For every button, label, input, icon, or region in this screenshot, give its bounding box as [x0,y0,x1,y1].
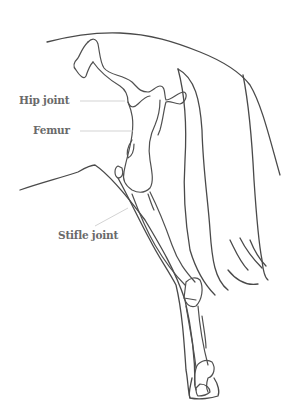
hoof-inner [196,384,210,396]
ischium [93,62,150,107]
stifle-joint-leader [95,208,128,226]
hip-joint-label: Hip joint [19,94,69,106]
tail-outline [178,69,228,290]
pelvis-bone [88,39,186,135]
patella-bone [115,166,123,178]
horse-hindleg-diagram: Hip joint Femur Stifle joint [0,0,286,418]
stifle-joint-label: Stifle joint [58,229,118,241]
belly-outline [20,165,195,385]
rump-outline [47,33,280,175]
fibula-bone [148,194,154,210]
femur-label: Femur [33,124,70,136]
hock-bones [184,278,202,307]
pelvis-wing [74,42,93,78]
illustration [0,0,286,418]
leg-front-outline [118,178,190,398]
tail-inner [178,69,215,295]
